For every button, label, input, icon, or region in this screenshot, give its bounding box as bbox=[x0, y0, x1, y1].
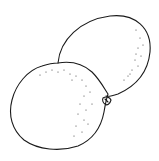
front-fruit-outline bbox=[11, 62, 109, 149]
citrus-illustration: Two citrus fruits line drawing bbox=[0, 0, 159, 161]
back-fruit-outline bbox=[58, 16, 150, 97]
peel-texture bbox=[40, 30, 144, 137]
